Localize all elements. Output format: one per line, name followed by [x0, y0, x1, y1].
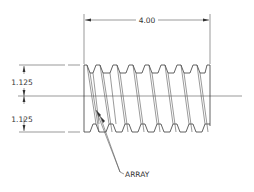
lower-height-label: 1.125 [11, 115, 33, 124]
screw-drawing: 4.00 1.125 1.125 [0, 0, 254, 192]
thread-helix-lines [87, 65, 208, 132]
arrowhead-right-icon [203, 19, 209, 22]
array-leader: ARRAY [96, 110, 150, 179]
arrowhead-top-icon [23, 66, 26, 72]
height-dimension: 1.125 1.125 [11, 65, 80, 132]
upper-height-label: 1.125 [11, 78, 33, 87]
length-dimension: 4.00 [84, 14, 210, 64]
arrowhead-bottom-icon [23, 125, 26, 131]
thread-top-profile [84, 65, 210, 73]
array-label: ARRAY [125, 170, 150, 179]
length-label: 4.00 [139, 16, 156, 25]
arrowhead-left-icon [85, 19, 91, 22]
